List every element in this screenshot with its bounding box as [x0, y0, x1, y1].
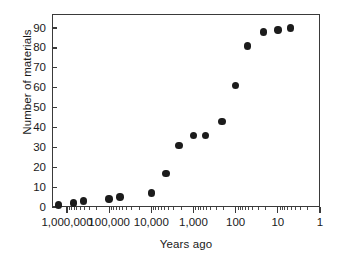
x-minor-tick: [195, 207, 196, 210]
x-minor-tick: [206, 207, 207, 210]
x-minor-tick: [223, 207, 224, 210]
x-minor-tick: [80, 207, 81, 210]
y-tick-mark: [52, 187, 57, 188]
x-minor-tick: [153, 207, 154, 210]
x-minor-tick: [265, 207, 266, 210]
x-minor-tick: [291, 207, 292, 210]
x-tick-mark: [151, 207, 152, 213]
x-minor-tick: [238, 207, 239, 210]
data-point: [287, 24, 294, 31]
x-minor-tick: [168, 207, 169, 210]
y-tick-mark: [52, 147, 57, 148]
x-minor-tick: [89, 207, 90, 210]
x-minor-tick: [131, 207, 132, 210]
x-tick-mark: [235, 207, 236, 213]
x-minor-tick: [248, 207, 249, 210]
x-minor-tick: [210, 207, 211, 210]
data-point: [260, 28, 267, 35]
data-point: [244, 42, 251, 49]
x-minor-tick: [71, 207, 72, 210]
y-tick-label: 30: [0, 140, 46, 154]
x-minor-tick: [84, 207, 85, 210]
x-minor-tick: [280, 207, 281, 210]
x-minor-tick: [198, 207, 199, 210]
x-minor-tick: [216, 207, 217, 210]
data-point: [175, 142, 182, 149]
x-minor-tick: [203, 207, 204, 210]
y-tick-mark: [52, 27, 57, 28]
x-minor-tick: [122, 207, 123, 210]
x-minor-tick: [74, 207, 75, 210]
y-tick-mark: [52, 47, 57, 48]
x-tick-mark: [109, 207, 110, 213]
y-tick-label: 70: [0, 60, 46, 74]
y-tick-label: 50: [0, 100, 46, 114]
x-minor-tick: [119, 207, 120, 210]
y-tick-mark: [52, 107, 57, 108]
y-tick-label: 0: [0, 200, 46, 214]
x-tick-mark: [319, 207, 320, 213]
y-tick-label: 10: [0, 180, 46, 194]
y-tick-label: 80: [0, 40, 46, 54]
y-tick-label: 60: [0, 80, 46, 94]
y-tick-label: 90: [0, 21, 46, 35]
x-minor-tick: [155, 207, 156, 210]
x-minor-tick: [282, 207, 283, 210]
scatter-chart: Number of materials 0102030405060708090 …: [0, 0, 340, 266]
x-axis-title: Years ago: [52, 238, 320, 250]
x-minor-tick: [116, 207, 117, 210]
x-minor-tick: [295, 207, 296, 210]
x-minor-tick: [76, 207, 77, 210]
x-minor-tick: [240, 207, 241, 210]
data-point: [55, 201, 62, 208]
data-point: [218, 118, 225, 125]
x-minor-tick: [258, 207, 259, 210]
y-tick-mark: [52, 67, 57, 68]
x-tick-label: 1: [278, 215, 340, 229]
x-minor-tick: [307, 207, 308, 210]
x-minor-tick: [181, 207, 182, 210]
y-tick-mark: [52, 127, 57, 128]
y-tick-label: 20: [0, 160, 46, 174]
x-minor-tick: [245, 207, 246, 210]
x-tick-mark: [277, 207, 278, 213]
x-minor-tick: [113, 207, 114, 210]
x-minor-tick: [158, 207, 159, 210]
plot-area: [52, 14, 320, 207]
data-point: [274, 26, 281, 33]
x-minor-tick: [173, 207, 174, 210]
y-tick-label: 40: [0, 120, 46, 134]
x-minor-tick: [126, 207, 127, 210]
y-tick-mark: [52, 167, 57, 168]
data-point: [70, 199, 77, 206]
x-tick-mark: [193, 207, 194, 213]
y-tick-mark: [52, 87, 57, 88]
x-minor-tick: [242, 207, 243, 210]
x-minor-tick: [200, 207, 201, 210]
data-point: [105, 195, 112, 202]
x-tick-mark: [66, 207, 67, 213]
data-point: [162, 170, 169, 177]
x-minor-tick: [284, 207, 285, 210]
x-minor-tick: [69, 207, 70, 210]
x-minor-tick: [300, 207, 301, 210]
x-minor-tick: [111, 207, 112, 210]
x-minor-tick: [252, 207, 253, 210]
x-minor-tick: [139, 207, 140, 210]
x-minor-tick: [164, 207, 165, 210]
x-minor-tick: [161, 207, 162, 210]
data-point: [116, 193, 123, 200]
x-minor-tick: [287, 207, 288, 210]
data-point: [148, 189, 155, 196]
x-minor-tick: [96, 207, 97, 210]
